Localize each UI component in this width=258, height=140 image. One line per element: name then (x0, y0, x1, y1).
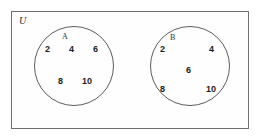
set-a-element: 8 (58, 77, 63, 86)
set-b-element: 6 (186, 66, 191, 75)
universal-set-label: U (19, 15, 26, 26)
set-a-element: 6 (93, 45, 98, 54)
venn-diagram-figure: U A 2 4 6 8 10 B 2 4 6 8 10 (0, 0, 258, 140)
set-b-label: B (170, 33, 175, 42)
set-a-circle (34, 26, 114, 106)
set-a-element: 10 (82, 77, 92, 86)
set-a-element: 4 (69, 45, 74, 54)
set-a-label: A (62, 32, 68, 41)
set-a-element: 2 (45, 45, 50, 54)
set-b-element: 8 (160, 85, 165, 94)
set-b-element: 4 (209, 45, 214, 54)
set-b-element: 10 (206, 85, 216, 94)
set-b-element: 2 (160, 45, 165, 54)
